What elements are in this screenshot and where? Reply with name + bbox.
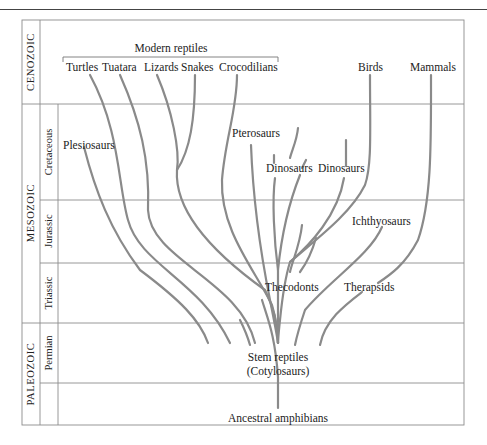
era-label-cenozoic: CENOZOIC bbox=[26, 33, 37, 91]
taxon-dinosaurs-2: Dinosaurs bbox=[318, 163, 365, 175]
branch-thecodonts bbox=[278, 262, 290, 343]
taxon-snakes: Snakes bbox=[181, 62, 214, 74]
taxon-plesiosaurs: Plesiosaurs bbox=[63, 140, 115, 152]
era-label-mesozoic: MESOZOIC bbox=[26, 184, 37, 242]
taxon-birds: Birds bbox=[358, 62, 383, 74]
taxon-tuatara: Tuatara bbox=[102, 62, 137, 74]
taxon-crocodilians: Crocodilians bbox=[219, 62, 278, 74]
branch-dinosaurs-a-stem bbox=[274, 178, 278, 270]
taxon-turtles: Turtles bbox=[66, 62, 98, 74]
branch-lizards bbox=[157, 75, 278, 343]
branch-therapsids bbox=[320, 292, 362, 345]
branch-dinosaurs-d-stem bbox=[290, 178, 344, 262]
taxon-mammals: Mammals bbox=[410, 62, 456, 74]
taxon-ancestral-amphibians: Ancestral amphibians bbox=[228, 413, 328, 425]
taxon-therapsids: Therapsids bbox=[344, 282, 394, 294]
period-label-cretaceous: Cretaceous bbox=[44, 129, 55, 176]
taxon-ichthyosaurs: Ichthyosaurs bbox=[352, 216, 411, 228]
period-label-jurassic: Jurassic bbox=[44, 214, 55, 247]
branch-plesiosaurs bbox=[84, 147, 208, 343]
branch-jurassic-split-1 bbox=[290, 225, 302, 272]
taxon-pterosaurs: Pterosaurs bbox=[232, 128, 280, 140]
taxon-stem-reptiles: Stem reptiles bbox=[248, 352, 308, 364]
taxon-cotylosaurs: (Cotylosaurs) bbox=[247, 366, 310, 378]
branch-dinosaurs-b bbox=[290, 128, 298, 158]
branch-mammals bbox=[378, 75, 431, 283]
taxon-thecodonts: Thecodonts bbox=[265, 282, 319, 294]
modern-reptiles-label: Modern reptiles bbox=[134, 43, 207, 55]
period-label-triassic: Triassic bbox=[44, 277, 55, 310]
period-label-permian: Permian bbox=[44, 336, 55, 371]
branch-turtles bbox=[90, 75, 230, 343]
taxon-lizards: Lizards bbox=[144, 62, 178, 74]
branch-snakes bbox=[177, 75, 195, 170]
taxon-dinosaurs-1: Dinosaurs bbox=[266, 163, 313, 175]
branch-tuatara bbox=[120, 75, 255, 343]
era-label-paleozoic: PALEOZOIC bbox=[26, 343, 37, 406]
